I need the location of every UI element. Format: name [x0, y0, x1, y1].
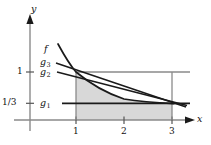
curve-label-g2: g2: [40, 67, 50, 77]
x-tick-label-2: 2: [121, 127, 127, 136]
curve-label-f: f: [44, 44, 48, 54]
curve-label-g2-sub: 2: [46, 71, 50, 79]
y-tick-label-one-third: 1/3: [2, 98, 16, 107]
plot-svg: [0, 0, 211, 145]
y-tick-label-1: 1: [17, 67, 23, 76]
x-axis-label: x: [197, 114, 202, 124]
x-tick-label-1: 1: [73, 127, 79, 136]
shaded-region-under-f: [76, 72, 172, 120]
y-axis-arrow: [26, 14, 33, 24]
x-axis-arrow: [185, 116, 195, 123]
y-axis-label: y: [31, 4, 36, 14]
curve-label-g1-sub: 1: [46, 102, 50, 110]
x-tick-label-3: 3: [169, 127, 175, 136]
curve-label-g1: g1: [40, 98, 50, 108]
figure-container: y x 1 1/3 1 2 3 f g3 g2 g1: [0, 0, 211, 145]
